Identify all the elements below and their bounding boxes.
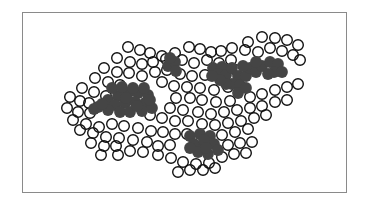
filled-circle	[212, 144, 224, 156]
filled-circle	[164, 52, 176, 64]
open-circle	[293, 40, 304, 51]
open-circle	[112, 67, 123, 78]
open-circle	[125, 146, 136, 157]
open-circle	[157, 77, 168, 88]
open-circle	[257, 89, 268, 100]
open-circle	[277, 46, 288, 57]
filled-circle	[170, 65, 182, 77]
cluster-bottom	[184, 128, 224, 160]
circle-cluster-diagram	[0, 0, 366, 209]
open-circle	[195, 83, 206, 94]
filled-circle	[200, 142, 212, 154]
open-circle	[133, 123, 144, 134]
open-circle	[270, 97, 281, 108]
open-circle	[112, 53, 123, 64]
open-circle	[219, 107, 230, 118]
open-circle	[195, 44, 206, 55]
open-circle	[128, 135, 139, 146]
open-circle	[185, 93, 196, 104]
filled-circle	[237, 60, 249, 72]
open-circle	[88, 128, 99, 139]
open-circle	[282, 95, 293, 106]
filled-circle	[127, 82, 139, 94]
open-circle	[184, 42, 195, 53]
open-circle	[225, 96, 236, 107]
open-circle	[235, 138, 246, 149]
filled-circle	[120, 92, 132, 104]
open-circle	[146, 126, 157, 137]
open-circle	[223, 118, 234, 129]
open-circle	[137, 71, 148, 82]
open-circle	[73, 107, 84, 118]
open-circle	[229, 149, 240, 160]
open-circle	[150, 67, 161, 78]
open-circle	[183, 116, 194, 127]
open-circle	[89, 87, 100, 98]
open-circle	[253, 47, 264, 58]
filled-circle	[206, 70, 218, 82]
open-circle	[209, 85, 220, 96]
filled-circle	[144, 94, 156, 106]
open-circle	[165, 103, 176, 114]
open-circle	[123, 42, 134, 53]
open-circle	[173, 167, 184, 178]
open-circle	[170, 129, 181, 140]
open-circle	[197, 119, 208, 130]
open-circle	[230, 127, 241, 138]
open-circle	[270, 85, 281, 96]
filled-circle	[262, 68, 274, 80]
open-circle	[210, 120, 221, 131]
open-circle	[249, 113, 260, 124]
open-circle	[270, 33, 281, 44]
filled-circle	[138, 82, 150, 94]
open-circle	[68, 115, 79, 126]
open-circle	[137, 59, 148, 70]
open-circle	[247, 137, 258, 148]
open-circle	[257, 32, 268, 43]
open-circle	[171, 93, 182, 104]
open-circle	[197, 95, 208, 106]
open-circle	[217, 130, 228, 141]
open-circle	[138, 147, 149, 158]
open-circle	[265, 43, 276, 54]
open-circle	[282, 35, 293, 46]
open-circle	[81, 119, 92, 130]
filled-circle	[276, 66, 288, 78]
filled-circle	[250, 56, 262, 68]
open-circle	[148, 57, 159, 68]
open-circle	[216, 46, 227, 57]
open-circle	[170, 116, 181, 127]
open-circle	[86, 138, 97, 149]
open-circle	[178, 105, 189, 116]
open-circle	[211, 97, 222, 108]
open-circle	[189, 58, 200, 69]
open-circle	[185, 165, 196, 176]
open-circle	[243, 124, 254, 135]
filled-circle	[106, 82, 118, 94]
open-circle	[245, 103, 256, 114]
open-circle	[282, 82, 293, 93]
open-circle	[187, 71, 198, 82]
open-circle	[119, 121, 130, 132]
open-circle	[75, 125, 86, 136]
open-circle	[90, 73, 101, 84]
filled-circle	[131, 100, 143, 112]
filled-circle	[96, 98, 108, 110]
open-circle	[191, 159, 202, 170]
open-circle	[135, 45, 146, 56]
open-circle	[193, 107, 204, 118]
open-circle	[157, 113, 168, 124]
open-circle	[293, 79, 304, 90]
open-circle	[99, 63, 110, 74]
open-circle	[96, 150, 107, 161]
cluster-left	[88, 81, 158, 118]
open-circle	[107, 119, 118, 130]
filled-circle	[116, 81, 128, 93]
open-circle	[166, 153, 177, 164]
open-circle	[65, 92, 76, 103]
open-circle	[232, 105, 243, 116]
open-circle	[206, 109, 217, 120]
open-circle	[142, 137, 153, 148]
filled-circle	[184, 142, 196, 154]
open-circle	[125, 57, 136, 68]
